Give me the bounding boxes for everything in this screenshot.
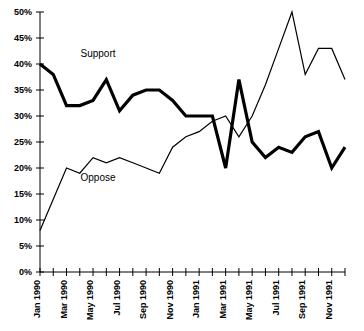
- y-tick-label: 45%: [14, 33, 32, 43]
- x-tick-label: Mar 1991: [218, 280, 228, 319]
- series-annotations: SupportOppose: [81, 48, 116, 184]
- x-tick-label: Jan 1990: [32, 280, 42, 318]
- x-tick-label: Mar 1990: [59, 280, 69, 319]
- x-axis: Jan 1990Mar 1990May 1990Jul 1990Sep 1990…: [32, 268, 345, 320]
- series-line-support: [40, 64, 345, 168]
- y-tick-label: 5%: [19, 241, 32, 251]
- x-tick-label: Sep 1990: [138, 280, 148, 319]
- x-tick-label: Nov 1991: [324, 280, 334, 320]
- series-group: [40, 12, 345, 230]
- x-tick-label: Jan 1991: [191, 280, 201, 318]
- x-tick-label: May 1990: [85, 280, 95, 320]
- chart-canvas: 0%5%10%15%20%25%30%35%40%45%50% Jan 1990…: [0, 0, 364, 331]
- y-tick-label: 50%: [14, 7, 32, 17]
- x-axis-tick-labels: Jan 1990Mar 1990May 1990Jul 1990Sep 1990…: [32, 280, 334, 320]
- y-tick-label: 40%: [14, 59, 32, 69]
- y-tick-label: 35%: [14, 85, 32, 95]
- y-tick-label: 10%: [14, 215, 32, 225]
- series-label-support: Support: [81, 48, 116, 59]
- y-tick-label: 0%: [19, 267, 32, 277]
- y-tick-label: 30%: [14, 111, 32, 121]
- series-label-oppose: Oppose: [81, 172, 116, 183]
- x-tick-label: May 1991: [244, 280, 254, 320]
- x-tick-label: Jul 1990: [112, 280, 122, 316]
- y-axis: 0%5%10%15%20%25%30%35%40%45%50%: [14, 7, 44, 277]
- series-line-oppose: [40, 12, 345, 230]
- x-tick-label: Nov 1990: [165, 280, 175, 320]
- y-tick-label: 15%: [14, 189, 32, 199]
- y-tick-label: 25%: [14, 137, 32, 147]
- y-tick-label: 20%: [14, 163, 32, 173]
- y-axis-tick-labels: 0%5%10%15%20%25%30%35%40%45%50%: [14, 7, 32, 277]
- x-tick-label: Sep 1991: [297, 280, 307, 319]
- line-chart: 0%5%10%15%20%25%30%35%40%45%50% Jan 1990…: [0, 0, 364, 331]
- x-tick-label: Jul 1991: [271, 280, 281, 316]
